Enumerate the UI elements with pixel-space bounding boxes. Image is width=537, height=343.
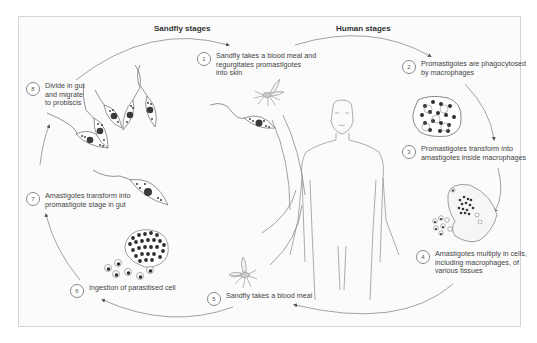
step-number-badge: 4: [416, 250, 430, 264]
step-2: 2 Promastigotes are phagocytosed by macr…: [402, 60, 526, 77]
parasitised-cell-with-amastigotes: [105, 230, 169, 280]
step-5: 5 Sandfly takes a blood meal: [207, 292, 312, 306]
arrow-6-to-7: [46, 215, 80, 280]
step-number-badge: 1: [197, 52, 211, 66]
human-figure: [290, 100, 399, 300]
step-4: 4 Amastigotes multiply in cells, includi…: [416, 250, 527, 276]
sandfly-biting: [254, 79, 284, 106]
heading-human-stages: Human stages: [336, 24, 391, 33]
sandfly-feeding: [229, 257, 257, 288]
step-3: 3 Promastigotes transform into amastigot…: [402, 145, 526, 162]
step-number-badge: 3: [402, 145, 416, 159]
step-label: Amastigotes multiply in cells, including…: [435, 250, 527, 276]
arrow-4-to-5: [295, 284, 453, 314]
arrow-7-to-8: [40, 126, 49, 165]
step-1: 1 Sandfly takes a blood meal and regurgi…: [197, 52, 316, 78]
macrophage-bursting-amastigotes: [433, 184, 497, 241]
step-number-badge: 7: [26, 192, 40, 206]
step-label: Sandfly takes a blood meal: [226, 292, 312, 301]
step-label: Promastigotes transform into amastigotes…: [421, 145, 526, 162]
step-label: Amastigotes transform into promastigote …: [45, 192, 131, 209]
step-8: 8 Divide in gut and migrate to probiscis: [26, 82, 85, 108]
macrophage-with-promastigotes: [413, 96, 461, 136]
step-6: 6 Ingestion of parasitised cell: [70, 284, 176, 298]
step-label: Promastigotes are phagocytosed by macrop…: [421, 60, 526, 77]
sandfly-bite-lines: [262, 115, 305, 265]
step-number-badge: 2: [402, 60, 416, 74]
step-label: Ingestion of parasitised cell: [89, 284, 176, 293]
arrow-3-to-4: [495, 168, 501, 211]
promastigote: [210, 104, 275, 129]
step-label: Sandfly takes a blood meal and regurgita…: [216, 52, 316, 78]
heading-sandfly-stages: Sandfly stages: [154, 24, 210, 33]
step-number-badge: 8: [26, 82, 40, 96]
step-7: 7 Amastigotes transform into promastigot…: [26, 192, 131, 209]
step-label: Divide in gut and migrate to probiscis: [45, 82, 85, 108]
step-number-badge: 6: [70, 284, 84, 298]
step-number-badge: 5: [207, 292, 221, 306]
arrow-2-to-3: [465, 84, 494, 139]
